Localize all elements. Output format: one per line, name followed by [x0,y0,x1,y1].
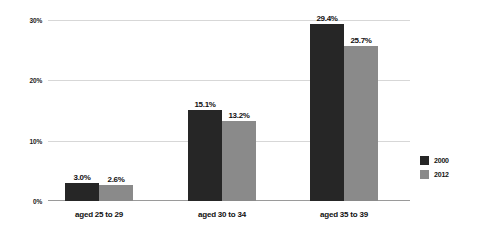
bar-value-label: 25.7% [350,36,371,45]
y-axis-tick-label-0: 0% [2,198,42,205]
bar-2012-aged-30-to-34[interactable]: 13.2% [222,121,256,201]
y-axis-tick-label-2: 20% [2,77,42,84]
bar-group-1-bars: 15.1% 13.2% [188,20,256,201]
bar-value-label: 15.1% [194,100,215,109]
plot-area: 3.0% 2.6% aged 25 to 29 15.1% 13.2% aged… [48,20,410,201]
bar-2012-aged-35-to-39[interactable]: 25.7% [344,46,378,201]
bar-2000-aged-25-to-29[interactable]: 3.0% [65,183,99,201]
y-axis-tick-label-1: 10% [2,137,42,144]
bar-group-2-bars: 29.4% 25.7% [310,20,378,201]
legend-item-2000[interactable]: 2000 [420,153,449,167]
x-axis-category-label-1: aged 30 to 34 [188,210,256,219]
legend-swatch-icon [420,170,429,179]
y-axis-tick-label-3: 30% [2,17,42,24]
bar-group-2: 29.4% 25.7% aged 35 to 39 [310,20,378,201]
bar-group-1: 15.1% 13.2% aged 30 to 34 [188,20,256,201]
chart-legend: 2000 2012 [420,153,449,181]
bar-value-label: 29.4% [316,14,337,23]
bar-value-label: 3.0% [73,173,90,182]
bar-value-label: 2.6% [107,175,124,184]
bar-group-0-bars: 3.0% 2.6% [65,20,133,201]
bar-2012-aged-25-to-29[interactable]: 2.6% [99,185,133,201]
legend-item-2012[interactable]: 2012 [420,167,449,181]
bar-group-0: 3.0% 2.6% aged 25 to 29 [65,20,133,201]
bar-2000-aged-35-to-39[interactable]: 29.4% [310,24,344,202]
legend-swatch-icon [420,156,429,165]
legend-item-label: 2012 [434,171,449,178]
legend-item-label: 2000 [434,157,449,164]
bar-value-label: 13.2% [228,111,249,120]
bar-2000-aged-30-to-34[interactable]: 15.1% [188,110,222,201]
x-axis-category-label-2: aged 35 to 39 [310,210,378,219]
bar-chart: 30% 20% 10% 0% 3.0% 2.6% aged 25 to 29 [0,0,480,240]
x-axis-category-label-0: aged 25 to 29 [65,210,133,219]
